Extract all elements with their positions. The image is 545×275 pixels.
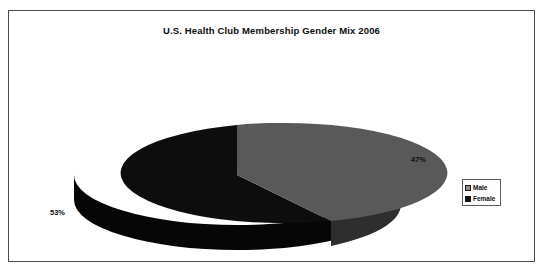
pie-chart-graphic — [0, 0, 545, 275]
pie-label-male: 47% — [411, 155, 426, 164]
pie-label-female: 53% — [50, 208, 65, 217]
legend-swatch-female-icon — [465, 196, 471, 202]
legend-swatch-male-icon — [465, 185, 471, 191]
legend-item-female[interactable]: Female — [465, 193, 499, 204]
legend-label-male: Male — [473, 182, 487, 193]
legend-item-male[interactable]: Male — [465, 182, 499, 193]
chart-container: U.S. Health Club Membership Gender Mix 2… — [0, 0, 545, 275]
legend-label-female: Female — [473, 193, 495, 204]
chart-legend: Male Female — [462, 179, 501, 206]
